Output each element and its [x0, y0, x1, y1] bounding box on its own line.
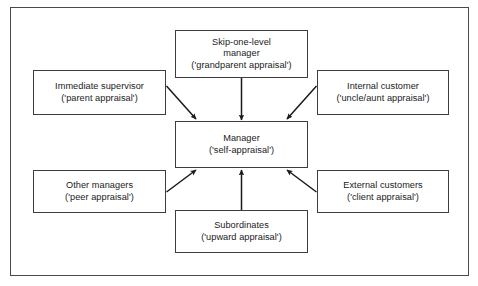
node-label-line-2: ('peer appraisal')	[65, 192, 134, 204]
node-label-line-1: Skip-one-level	[212, 37, 271, 49]
node-label-line-1: Subordinates	[214, 220, 269, 232]
node-label-line-2: manager	[223, 48, 260, 60]
node-label-line-2: ('client appraisal')	[347, 192, 419, 204]
node-label-line-2: ('self-appraisal')	[209, 145, 274, 157]
node-label-line-1: Immediate supervisor	[55, 81, 144, 93]
node-subordinates: Subordinates ('upward appraisal')	[175, 210, 308, 253]
node-label-line-1: External customers	[343, 180, 423, 192]
node-label-line-1: Other managers	[66, 180, 133, 192]
node-other-managers: Other managers ('peer appraisal')	[33, 170, 166, 213]
node-label-line-1: Internal customer	[347, 81, 419, 93]
node-label-line-2: ('upward appraisal')	[201, 232, 282, 244]
node-internal-customer: Internal customer ('uncle/aunt appraisal…	[317, 70, 449, 115]
node-external-customers: External customers ('client appraisal')	[317, 170, 449, 213]
node-label-line-2: ('parent appraisal')	[61, 93, 138, 105]
node-manager-center: Manager ('self-appraisal')	[175, 121, 308, 168]
node-label-line-2: ('uncle/aunt appraisal')	[336, 93, 429, 105]
node-label-line-1: Manager	[223, 133, 260, 145]
node-label-line-3: ('grandparent appraisal')	[191, 60, 291, 72]
appraisal-diagram-figure: Skip-one-level manager ('grandparent app…	[0, 0, 478, 286]
node-immediate-supervisor: Immediate supervisor ('parent appraisal'…	[33, 70, 166, 115]
node-skip-one-level-manager: Skip-one-level manager ('grandparent app…	[175, 30, 308, 78]
